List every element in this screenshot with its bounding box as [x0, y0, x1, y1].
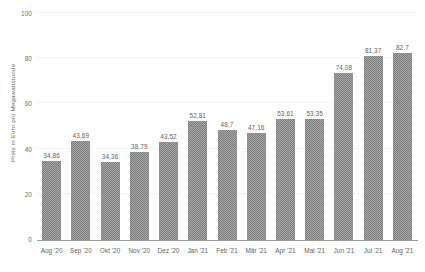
bar-value-label: 74,08: [326, 64, 361, 71]
x-axis-tick-labels: Aug '20Sep '20Okt '20Nov '20Dez '20Jan '…: [37, 243, 417, 263]
gridline: [37, 102, 417, 104]
y-axis-tick-label: 40: [10, 146, 32, 153]
bar[interactable]: [218, 130, 237, 240]
x-axis-line: [37, 240, 418, 241]
bar-value-label: 52,81: [180, 112, 215, 119]
bar-value-label: 34,86: [34, 152, 69, 159]
bar-value-label: 43,52: [151, 133, 186, 140]
bar[interactable]: [305, 119, 324, 240]
bar-value-label: 43,69: [63, 132, 98, 139]
bar[interactable]: [247, 133, 266, 240]
x-axis-tick-label: Aug '21: [384, 247, 420, 254]
y-axis-tick-label: 0: [10, 236, 32, 243]
bar[interactable]: [101, 162, 120, 240]
y-axis-tick-label: 60: [10, 100, 32, 107]
y-axis-tick-label: 20: [10, 191, 32, 198]
bar[interactable]: [188, 121, 207, 240]
bar[interactable]: [71, 141, 90, 240]
bar[interactable]: [334, 73, 353, 240]
bar-value-label: 53,35: [297, 110, 332, 117]
bar[interactable]: [276, 119, 295, 240]
bar[interactable]: [364, 56, 383, 240]
gridline: [37, 12, 417, 14]
bar[interactable]: [130, 152, 149, 240]
y-axis-tick-label: 100: [10, 10, 32, 17]
gridline: [37, 57, 417, 59]
bar-chart: Preis in Euro pro Megawattstunde 0204060…: [0, 0, 425, 272]
bar-value-label: 38,79: [122, 143, 157, 150]
y-axis-tick-label: 80: [10, 55, 32, 62]
bar-value-label: 82,7: [385, 44, 420, 51]
bar-value-label: 47,16: [239, 124, 274, 131]
bar[interactable]: [393, 53, 412, 240]
bar-value-label: 34,36: [93, 153, 128, 160]
y-axis-title: Preis in Euro pro Megawattstunde: [6, 0, 20, 233]
bar[interactable]: [159, 142, 178, 240]
plot-area: 34,8643,6934,3638,7943,5252,8148,747,165…: [37, 14, 417, 240]
bar[interactable]: [42, 161, 61, 240]
